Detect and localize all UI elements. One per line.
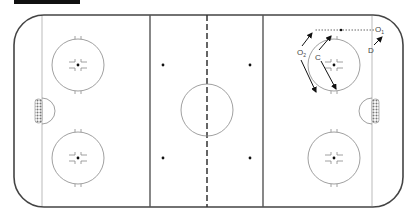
faceoff-dot — [77, 64, 80, 67]
neutral-dot — [249, 157, 252, 160]
player-d: D — [368, 46, 374, 55]
neutral-dot — [162, 157, 165, 160]
left-net — [35, 99, 42, 123]
faceoff-dot — [333, 64, 336, 67]
neutral-dot — [249, 64, 252, 67]
hockey-rink: O1 O2 C D — [0, 0, 411, 219]
player-c: C — [315, 53, 321, 62]
pass-dot — [340, 29, 343, 32]
faceoff-dot — [77, 157, 80, 160]
right-net — [372, 99, 379, 123]
rink-boards — [14, 15, 403, 207]
neutral-dot — [162, 64, 165, 67]
faceoff-dot — [333, 157, 336, 160]
